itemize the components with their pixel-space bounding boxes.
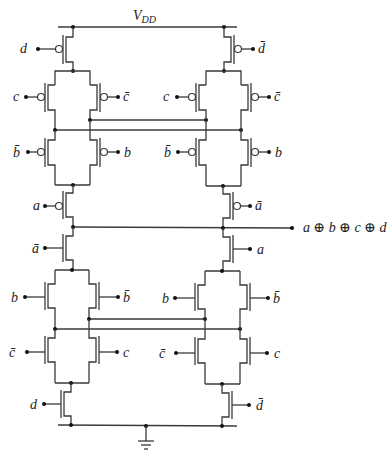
nmos-left-pair1 (23, 270, 120, 329)
gate-label: b̄ (13, 145, 20, 160)
gate-label: d̄ (256, 398, 264, 413)
gate-label: c (123, 345, 130, 360)
gate-label: d̄ (258, 41, 266, 56)
pmos-left-pair1 (24, 83, 120, 130)
nmos-left-top (43, 227, 73, 270)
gate-label: ā (32, 241, 39, 256)
output-label: a ⊕ b ⊕ c ⊕ d (303, 220, 387, 235)
vdd-rail (58, 25, 237, 29)
gate-label: b (275, 145, 282, 160)
ground-rail (58, 423, 237, 428)
gate-label: b̄ (273, 291, 280, 306)
gate-label: b (11, 290, 18, 305)
nmos-left-bottom (42, 383, 71, 425)
gate-label: c̄ (274, 89, 281, 104)
pmos-right-top (224, 27, 255, 71)
ground-icon (138, 426, 154, 449)
gate-label: c̄ (9, 345, 16, 360)
nmos-right-pair1 (173, 271, 270, 329)
gate-label: c (274, 346, 281, 361)
gate-label: c (13, 89, 20, 104)
gate-label: b̄ (164, 145, 171, 160)
gate-label: b̄ (123, 290, 130, 305)
pmos-right-pair1 (175, 83, 271, 130)
nmos-right-top (223, 228, 252, 270)
gate-label: a (33, 198, 40, 213)
gate-label: d (20, 41, 28, 56)
gate-label: a (257, 242, 264, 257)
circuit-diagram: VDD d c c̄ (0, 0, 390, 457)
gate-label: b (162, 291, 169, 306)
nmos-right-bottom (222, 384, 251, 426)
output-net (71, 225, 294, 230)
gate-label: c̄ (123, 89, 130, 104)
gate-label: d (30, 397, 38, 412)
pmos-left-top (36, 27, 73, 71)
gate-label: ā (255, 198, 262, 213)
pmos-right-bottom (223, 186, 252, 228)
pmos-left-bottom (43, 185, 73, 227)
gate-label: c̄ (159, 346, 166, 361)
vdd-label: VDD (133, 8, 157, 25)
gate-label: c (163, 89, 170, 104)
gate-label: b (124, 145, 131, 160)
